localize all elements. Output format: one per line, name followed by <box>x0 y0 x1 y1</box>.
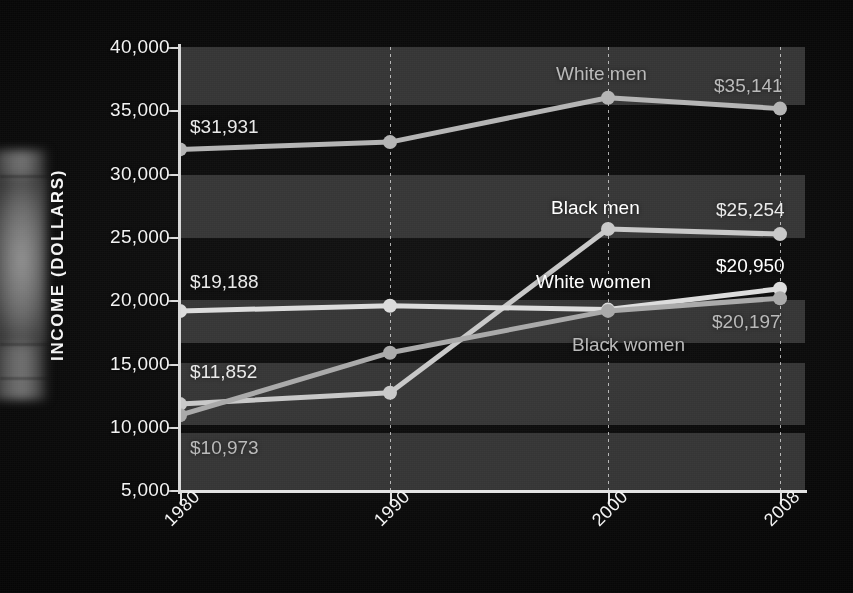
data-point-white-men-2008 <box>773 102 787 116</box>
data-point-black-women-2008 <box>773 291 787 305</box>
data-point-black-men-1990 <box>383 386 397 400</box>
series-line-white-women <box>180 289 780 311</box>
plot-area <box>180 47 805 491</box>
value-label-black-women-1980: $10,973 <box>190 437 259 459</box>
y-tick-label: 5,000 <box>50 479 170 501</box>
value-label-black-men-2008: $25,254 <box>716 199 785 221</box>
value-label-black-women-2008: $20,197 <box>712 311 781 333</box>
y-tick-label: 30,000 <box>50 163 170 185</box>
series-lines <box>180 47 805 491</box>
data-point-black-women-1980 <box>180 408 187 422</box>
y-tick-label: 10,000 <box>50 416 170 438</box>
data-point-white-women-1990 <box>383 299 397 313</box>
series-label-black-women: Black women <box>572 334 685 356</box>
data-point-black-women-1990 <box>383 346 397 360</box>
x-axis-line <box>178 490 807 493</box>
value-label-black-men-1980: $11,852 <box>190 361 257 383</box>
series-line-white-men <box>180 98 780 150</box>
y-tick-label: 40,000 <box>50 36 170 58</box>
data-point-white-men-2000 <box>601 91 615 105</box>
value-label-white-women-2008: $20,950 <box>716 255 785 277</box>
income-line-chart: 40,000 35,000 30,000 25,000 20,000 15,00… <box>0 0 853 593</box>
data-point-black-men-2008 <box>773 227 787 241</box>
series-line-black-men <box>180 229 780 404</box>
value-label-white-women-1980: $19,188 <box>190 271 259 293</box>
y-tick-label: 25,000 <box>50 226 170 248</box>
y-tick-label: 35,000 <box>50 99 170 121</box>
value-label-white-men-1980: $31,931 <box>190 116 259 138</box>
data-point-black-women-2000 <box>601 304 615 318</box>
data-point-white-women-1980 <box>180 304 187 318</box>
value-label-white-men-2008: $35,141 <box>714 75 783 97</box>
y-axis-title: INCOME (DOLLARS) <box>48 155 68 375</box>
y-tick-label: 20,000 <box>50 289 170 311</box>
data-point-white-men-1980 <box>180 142 187 156</box>
data-point-white-men-1990 <box>383 135 397 149</box>
y-tick-label: 15,000 <box>50 353 170 375</box>
data-point-black-men-2000 <box>601 222 615 236</box>
series-label-black-men: Black men <box>551 197 640 219</box>
series-label-white-women: White women <box>536 271 651 293</box>
series-label-white-men: White men <box>556 63 647 85</box>
